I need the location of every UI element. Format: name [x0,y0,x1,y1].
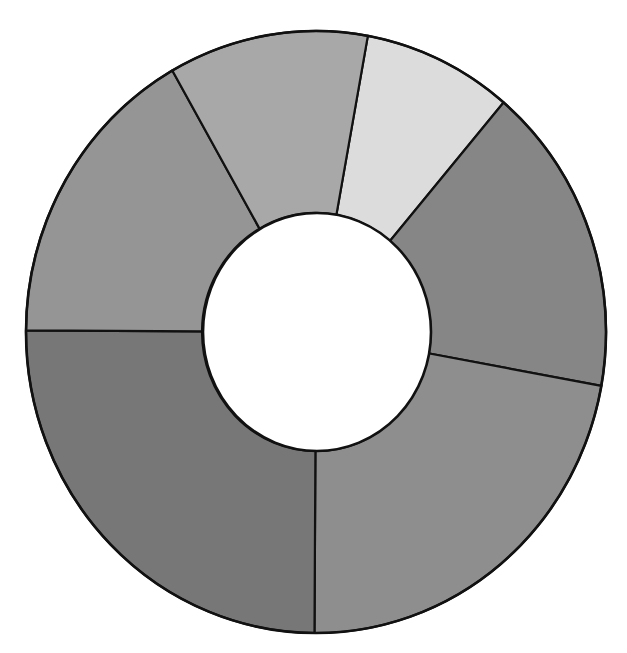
donut-chart [0,0,627,653]
donut-hole [203,213,431,451]
donut-chart-svg [0,0,627,653]
